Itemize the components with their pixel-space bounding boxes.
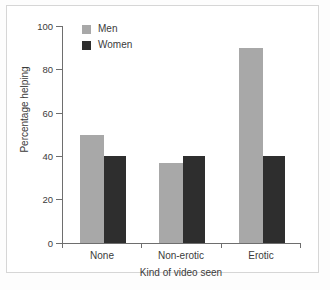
y-tick-label-20: 20 — [13, 195, 53, 205]
legend: Men Women — [82, 22, 132, 54]
x-tick-group-1-2 — [141, 243, 142, 248]
y-tick-100 — [56, 26, 62, 27]
bar-women-non-erotic — [183, 156, 205, 243]
figure: 0 20 40 60 80 100 None Non-erotic Erotic… — [0, 0, 330, 290]
y-axis-title: Percentage helping — [19, 50, 30, 170]
x-tick-right-edge — [300, 243, 301, 248]
bar-men-none — [80, 135, 104, 244]
y-tick-80 — [56, 69, 62, 70]
legend-label-men: Men — [98, 24, 117, 34]
x-axis-line — [62, 243, 300, 244]
y-tick-label-0: 0 — [13, 239, 53, 249]
legend-item-women: Women — [82, 38, 132, 52]
y-tick-20 — [56, 199, 62, 200]
bar-women-none — [104, 156, 126, 243]
bar-men-erotic — [239, 48, 263, 243]
x-tick-label-none: None — [57, 251, 147, 261]
y-tick-40 — [56, 156, 62, 157]
x-axis-title: Kind of video seen — [62, 267, 300, 278]
x-tick-group-2-3 — [221, 243, 222, 248]
x-tick-label-non-erotic: Non-erotic — [136, 251, 226, 261]
x-tick-label-erotic: Erotic — [216, 251, 306, 261]
plot-area: 0 20 40 60 80 100 None Non-erotic Erotic… — [0, 0, 330, 290]
legend-swatch-women-icon — [82, 41, 91, 50]
y-tick-60 — [56, 113, 62, 114]
x-tick-left-edge — [62, 243, 63, 248]
legend-label-women: Women — [98, 40, 132, 50]
bar-men-non-erotic — [159, 163, 183, 243]
y-axis-line — [62, 26, 63, 244]
bar-women-erotic — [263, 156, 285, 243]
legend-item-men: Men — [82, 22, 132, 36]
y-tick-label-100: 100 — [13, 22, 53, 32]
legend-swatch-men-icon — [82, 25, 91, 34]
